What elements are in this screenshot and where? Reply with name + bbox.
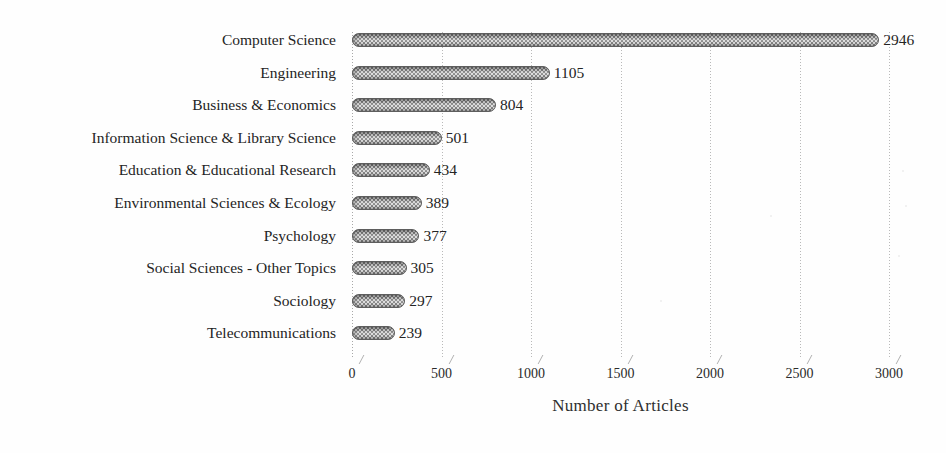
scan-speckle [905, 205, 907, 207]
bar-row: 1105 [352, 62, 889, 84]
bar-value-label: 389 [426, 192, 449, 214]
bar[interactable] [352, 294, 405, 308]
bar-value-label: 239 [399, 322, 422, 344]
bar-row: 389 [352, 192, 889, 214]
bar-value-label: 297 [409, 290, 432, 312]
category-label: Social Sciences - Other Topics [146, 257, 336, 279]
category-label: Business & Economics [192, 94, 336, 116]
x-tick-mark [708, 355, 723, 364]
bar-value-label: 377 [423, 225, 446, 247]
x-tick-mark [618, 355, 633, 364]
x-tick-mark [350, 355, 365, 364]
bar-row: 297 [352, 290, 889, 312]
category-label: Education & Educational Research [119, 159, 336, 181]
bar-row: 377 [352, 225, 889, 247]
bar-value-label: 1105 [554, 62, 584, 84]
scan-speckle [902, 170, 904, 172]
x-tick-label: 1500 [607, 366, 635, 382]
category-label: Computer Science [222, 29, 336, 51]
x-tick-label: 2500 [786, 366, 814, 382]
gridline [889, 32, 890, 358]
bar-row: 434 [352, 159, 889, 181]
x-axis: 050010001500200025003000 [352, 355, 889, 385]
bar-value-label: 501 [446, 127, 469, 149]
bar-row: 501 [352, 127, 889, 149]
x-tick-label: 500 [431, 366, 452, 382]
scan-speckle [770, 215, 772, 217]
category-label: Telecommunications [207, 322, 336, 344]
bar[interactable] [352, 131, 442, 145]
x-tick-mark [529, 355, 544, 364]
x-axis-title: Number of Articles [352, 396, 889, 416]
bar-row: 239 [352, 322, 889, 344]
x-tick-mark [797, 355, 812, 364]
scan-speckle [898, 255, 900, 257]
category-label: Sociology [273, 290, 336, 312]
bar[interactable] [352, 229, 419, 243]
x-tick-label: 1000 [517, 366, 545, 382]
bar[interactable] [352, 66, 550, 80]
x-tick-mark [439, 355, 454, 364]
category-label: Engineering [260, 62, 336, 84]
x-tick-mark [887, 355, 902, 364]
bar-value-label: 2946 [883, 29, 914, 51]
category-label: Psychology [264, 225, 336, 247]
plot-area: 29461105804501434389377305297239 [352, 29, 889, 355]
bar[interactable] [352, 326, 395, 340]
bar[interactable] [352, 163, 430, 177]
category-label: Environmental Sciences & Ecology [114, 192, 336, 214]
x-tick-label: 3000 [875, 366, 903, 382]
bar-value-label: 434 [434, 159, 457, 181]
x-tick-label: 0 [349, 366, 356, 382]
bar[interactable] [352, 33, 879, 47]
bar-value-label: 305 [411, 257, 434, 279]
bar-row: 305 [352, 257, 889, 279]
bar-row: 804 [352, 94, 889, 116]
bar[interactable] [352, 196, 422, 210]
bar[interactable] [352, 261, 407, 275]
bar[interactable] [352, 98, 496, 112]
scan-speckle [660, 300, 662, 302]
x-tick-label: 2000 [696, 366, 724, 382]
bar-row: 2946 [352, 29, 889, 51]
category-label: Information Science & Library Science [92, 127, 336, 149]
bar-value-label: 804 [500, 94, 523, 116]
bar-chart: Subject Categories Computer Science Engi… [0, 0, 946, 453]
category-label-column: Computer Science Engineering Business & … [44, 29, 344, 355]
